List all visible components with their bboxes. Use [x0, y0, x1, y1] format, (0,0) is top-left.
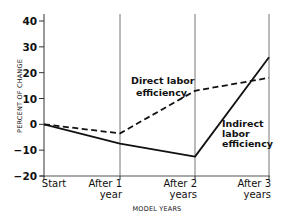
y-tick-label: 0 [30, 118, 37, 130]
y-tick-label: 20 [22, 67, 37, 79]
x-tick-label: After 1 [88, 178, 122, 189]
y-axis-title: PERCENT OF CHANGE [16, 59, 24, 133]
line-chart: 403020100−10−20 StartAfter 1yearAfter 2y… [0, 0, 281, 223]
direct-labor-label: efficiency [136, 87, 188, 98]
y-tick-label: 30 [22, 41, 37, 53]
x-tick-label: years [243, 189, 271, 200]
series-annotations: Direct laborefficiencyIndirectlaboreffic… [131, 75, 274, 149]
x-tick-label: After 2 [163, 178, 197, 189]
x-axis-ticks: StartAfter 1yearAfter 2yearsAfter 3years [42, 176, 271, 200]
x-tick-label: Start [42, 178, 67, 189]
y-tick-label: 10 [22, 93, 37, 105]
x-tick-label: years [169, 189, 197, 200]
y-tick-label: −10 [14, 144, 37, 156]
x-tick-label: year [100, 189, 123, 200]
y-tick-label: −20 [14, 170, 37, 182]
x-axis-title: MODEL YEARS [133, 205, 182, 213]
y-tick-label: 40 [22, 15, 37, 27]
direct-labor-label: Direct labor [131, 75, 195, 86]
indirect-labor-label: efficiency [222, 138, 274, 149]
x-tick-label: After 3 [237, 178, 271, 189]
